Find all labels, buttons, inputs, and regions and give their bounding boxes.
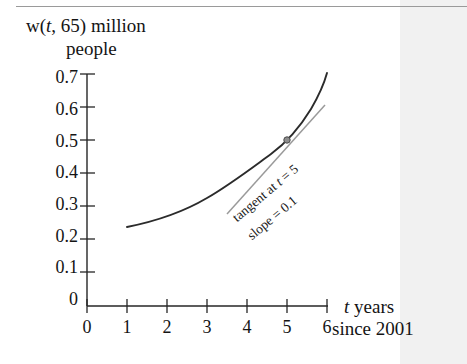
tangent-point-marker bbox=[284, 137, 290, 143]
figure-container: w(t, 65) million people t years since 20… bbox=[0, 0, 467, 364]
tangent-line bbox=[227, 105, 325, 214]
plot-area bbox=[0, 0, 467, 364]
